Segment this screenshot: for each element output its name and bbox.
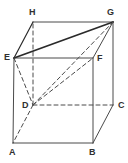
vertex-label-g: G [107,8,114,17]
edge-BC [93,105,113,143]
edge-DG [33,22,113,105]
cuboid-svg [0,0,128,163]
edge-DF [33,58,93,105]
edge-ED [14,58,33,105]
vertex-label-a: A [9,148,16,157]
vertex-label-d: D [22,101,29,110]
edge-DA [13,105,33,143]
vertex-label-e: E [4,53,10,62]
edge-EA [13,58,14,143]
diagonal-layer [14,22,113,105]
vertex-label-f: F [97,54,103,63]
vertex-label-c: C [118,101,125,110]
vertex-label-b: B [89,148,96,157]
vertex-label-h: H [29,8,36,17]
cuboid-figure: ABCDEFGH [0,0,128,163]
